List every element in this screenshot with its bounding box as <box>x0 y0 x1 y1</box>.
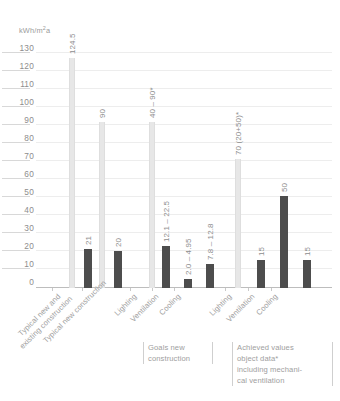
y-tick-rule <box>2 232 30 233</box>
gridline <box>36 88 332 89</box>
reference-bar-value-label: 124.5 <box>68 33 77 54</box>
group-caption-line: including mechani- <box>237 364 333 375</box>
y-tick-rule <box>2 124 30 125</box>
value-bar-goals-ventilation <box>184 279 192 288</box>
y-tick-label: 0 <box>4 277 34 287</box>
y-tick-rule <box>2 178 30 179</box>
gridline <box>36 106 332 107</box>
value-bar-value-label: 20 <box>114 238 123 247</box>
y-tick-rule <box>2 268 30 269</box>
reference-bar-achieved-lighting <box>235 159 241 288</box>
gridline <box>36 70 332 71</box>
value-bar-achieved-lighting <box>257 260 265 288</box>
gridline <box>36 160 332 161</box>
value-bar-goals-cooling <box>206 264 214 288</box>
y-axis: 130 120 110 100 90 80 70 60 50 40 30 20 … <box>0 48 34 288</box>
group-caption-line: Achieved values <box>237 342 333 353</box>
group-caption-achieved-values: Achieved values object data* including m… <box>237 342 333 386</box>
value-bar-goals-lighting <box>162 246 170 288</box>
y-tick-rule <box>2 52 30 53</box>
y-tick-rule <box>2 70 30 71</box>
value-bar-achieved-ventilation <box>280 196 288 288</box>
bar-chart: kWh/m2a 130 120 110 100 90 80 70 60 50 4… <box>0 0 340 401</box>
y-tick-rule <box>2 160 30 161</box>
gridline <box>36 52 332 53</box>
reference-bar-value-label: 40 – 90* <box>148 87 157 118</box>
y-axis-unit-tail: a <box>46 26 50 35</box>
group-caption-line: cal ventilation <box>237 375 333 386</box>
group-caption-line: object data* <box>237 353 333 364</box>
group-bracket-right <box>212 342 213 364</box>
group-bracket-left <box>143 342 144 364</box>
value-bar-value-label: 7.8 – 12.8 <box>206 223 215 260</box>
y-tick-rule <box>2 106 30 107</box>
reference-bar-typical-new-and-existing <box>69 58 75 288</box>
y-tick-rule <box>2 250 30 251</box>
value-bar-typical-new-and-existing <box>84 249 92 288</box>
y-tick-rule <box>2 196 30 197</box>
value-bar-value-label: 50 <box>280 183 289 192</box>
value-bar-value-label: 2.0 – 4.95 <box>184 238 193 275</box>
value-bar-typical-new-construction <box>114 251 122 288</box>
reference-bar-typical-new-construction <box>99 122 105 288</box>
plot-area: 124.5 21 90 20 40 – 90* 12.1 – 22.5 2.0 … <box>36 48 332 288</box>
group-caption-line: Goals new <box>148 342 210 353</box>
reference-bar-value-label: 90 <box>98 109 107 118</box>
gridline <box>36 142 332 143</box>
value-bar-achieved-cooling <box>303 260 311 288</box>
y-axis-unit-label: kWh/m2a <box>19 26 50 35</box>
value-bar-value-label: 12.1 – 22.5 <box>162 201 171 242</box>
y-tick-rule <box>2 214 30 215</box>
y-axis-unit-main: kWh/m <box>19 26 43 35</box>
gridline <box>36 178 332 179</box>
value-bar-value-label: 15 <box>257 247 266 256</box>
reference-bar-value-label: 70 (20+50)* <box>234 112 243 155</box>
group-caption-goals-new-construction: Goals new construction <box>148 342 210 364</box>
x-axis-label-achieved-cooling: Cooling <box>252 292 280 320</box>
value-bar-value-label: 21 <box>84 236 93 245</box>
reference-bar-goals-lighting <box>149 122 155 288</box>
group-bracket-left <box>232 342 233 386</box>
gridline <box>36 124 332 125</box>
y-tick-rule <box>2 142 30 143</box>
group-bracket-right <box>332 342 333 386</box>
y-tick-rule <box>2 88 30 89</box>
group-caption-line: construction <box>148 353 210 364</box>
value-bar-value-label: 15 <box>303 247 312 256</box>
